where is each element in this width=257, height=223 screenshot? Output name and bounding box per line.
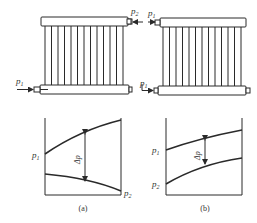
top-header-a bbox=[41, 17, 128, 26]
inlet-pressure-label-a: p1 bbox=[15, 76, 24, 87]
bottom-left-nozzle-a bbox=[34, 87, 40, 92]
tubes-a bbox=[45, 26, 123, 85]
upper-pressure-label-b: p1 bbox=[151, 145, 160, 156]
top-left-nozzle-b bbox=[155, 20, 160, 25]
lower-pressure-label-a: p2 bbox=[123, 188, 132, 199]
bottom-left-nozzle-b bbox=[154, 88, 158, 93]
top-inlet-pressure-label-b: p1 bbox=[147, 8, 156, 19]
top-header-b bbox=[160, 18, 246, 27]
bottom-right-nozzle-b bbox=[246, 88, 250, 93]
supply-pressure-curve-b bbox=[166, 130, 242, 150]
return-pressure-curve-b bbox=[166, 158, 242, 184]
lower-pressure-label-b: p2 bbox=[151, 179, 160, 190]
outlet-pressure-label-b: p2 bbox=[130, 6, 139, 17]
radiator-flow-diagram: p1 p2 p1 bbox=[0, 0, 257, 223]
bottom-inlet-pressure-label-b: p1 bbox=[139, 78, 148, 89]
delta-p-label-a: Δp bbox=[73, 155, 82, 165]
graph-a bbox=[45, 118, 121, 195]
bottom-header-a bbox=[40, 85, 129, 94]
supply-pressure-curve-a bbox=[45, 120, 121, 154]
radiator-a bbox=[17, 17, 132, 94]
upper-pressure-label-a: p1 bbox=[31, 150, 40, 161]
graph-b bbox=[166, 118, 242, 195]
caption-a: (a) bbox=[79, 204, 88, 213]
return-pressure-curve-a bbox=[45, 174, 121, 191]
delta-p-label-b: Δp bbox=[193, 151, 202, 161]
caption-b: (b) bbox=[200, 204, 210, 213]
bottom-header-b bbox=[158, 86, 246, 95]
tubes-b bbox=[163, 27, 241, 86]
outlet-nozzle-ab bbox=[127, 19, 131, 24]
bottom-right-nozzle-a bbox=[129, 87, 132, 92]
